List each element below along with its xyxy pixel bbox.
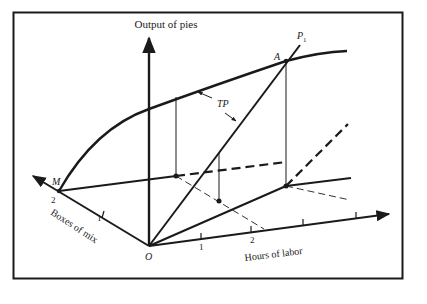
projection-dashes	[176, 176, 350, 229]
mix-tick-1-label: 1	[97, 213, 102, 223]
labor-line-dashed	[286, 124, 348, 186]
output-axis-label: Output of pies	[135, 18, 198, 30]
mix-2-line-solid	[59, 176, 176, 191]
ray-p1	[149, 45, 300, 246]
mix-tick-2-label: 2	[51, 195, 56, 205]
production-diagram: Output of pies TP A P1 M O 2 1 Boxes of …	[0, 0, 427, 304]
ray-label: P1	[296, 30, 307, 44]
mix-axis-tick	[102, 211, 104, 218]
labor-tick-1-label: 1	[199, 242, 204, 252]
point-m-label: M	[51, 176, 61, 187]
point-a-label: A	[273, 51, 281, 62]
tp-arrow-left	[198, 92, 212, 98]
origin-label: O	[145, 251, 152, 262]
points	[57, 59, 289, 204]
projection-verticals	[176, 61, 286, 201]
mix-2-line-dashed	[176, 162, 286, 176]
tp-label: TP	[217, 98, 229, 109]
labor-tick-2-label: 2	[250, 235, 255, 245]
tp-arrow-right	[225, 113, 236, 121]
tp-curve	[59, 51, 347, 191]
labor-axis-ticks	[201, 212, 356, 239]
labor-axis-label: Hours of labor	[244, 245, 304, 263]
labor-line-2	[286, 178, 351, 186]
